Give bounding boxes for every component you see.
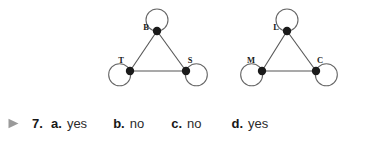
graph-2: LMC xyxy=(241,9,338,86)
choice-a-value: yes xyxy=(67,116,87,131)
graphs-layer: BTSLMC xyxy=(109,9,338,86)
choice-d: d. yes xyxy=(231,116,268,131)
page-root: BTSLMC 7. a. yes b. no c. no d. yes xyxy=(0,0,376,142)
choice-c-value: no xyxy=(187,116,201,131)
choice-d-letter: d. xyxy=(231,116,243,131)
vertex-s xyxy=(182,67,190,75)
choice-a-letter: a. xyxy=(51,116,62,131)
vertex-l xyxy=(283,27,291,35)
edge-l-m xyxy=(262,31,287,71)
vertex-b xyxy=(153,27,161,35)
choice-b: b. no xyxy=(113,116,144,131)
vertex-label-c: C xyxy=(317,55,323,65)
choice-b-letter: b. xyxy=(113,116,125,131)
vertex-label-b: B xyxy=(143,22,149,32)
edge-b-t xyxy=(130,31,157,71)
edge-l-c xyxy=(287,31,316,71)
self-loop-s xyxy=(185,64,207,86)
right-triangle-marker-icon xyxy=(7,117,20,130)
vertex-label-t: T xyxy=(118,55,124,65)
edge-b-s xyxy=(157,31,186,71)
vertex-label-l: L xyxy=(273,22,279,32)
self-loop-t xyxy=(109,64,131,86)
self-loop-m xyxy=(241,64,263,86)
vertex-c xyxy=(312,67,320,75)
choice-b-value: no xyxy=(130,116,144,131)
graphs-svg: BTSLMC xyxy=(0,0,376,104)
vertex-t xyxy=(126,67,134,75)
graph-figures: BTSLMC xyxy=(0,0,376,104)
choice-c-letter: c. xyxy=(171,116,182,131)
question-number: 7. xyxy=(32,116,43,131)
answer-row: 7. a. yes b. no c. no d. yes xyxy=(0,104,376,142)
vertex-label-s: S xyxy=(188,55,193,65)
vertex-m xyxy=(258,67,266,75)
choice-a: a. yes xyxy=(51,116,87,131)
choice-c: c. no xyxy=(171,116,201,131)
self-loop-c xyxy=(315,64,337,86)
choice-d-value: yes xyxy=(248,116,268,131)
graph-1: BTS xyxy=(109,9,208,86)
vertex-label-m: M xyxy=(247,55,255,65)
